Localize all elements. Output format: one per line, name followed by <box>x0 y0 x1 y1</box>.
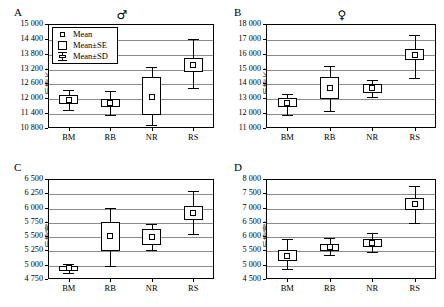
x-tick-mark <box>287 128 288 131</box>
y-tick-mark <box>45 98 48 99</box>
y-tick-mark <box>45 208 48 209</box>
mean-marker <box>327 244 333 250</box>
x-tick-mark <box>415 128 416 131</box>
x-tick-mark <box>69 279 70 282</box>
x-tick-label: RB <box>309 284 352 293</box>
y-tick-mark <box>263 236 266 237</box>
y-tick-mark <box>263 24 266 25</box>
whisker-cap <box>409 78 420 79</box>
whisker-cap <box>105 208 116 209</box>
x-tick-label: RB <box>90 133 132 142</box>
y-tick-label: 6 000 <box>222 232 261 240</box>
x-tick-label: NR <box>351 284 394 293</box>
y-tick-label: 14 000 <box>222 79 261 87</box>
y-tick-mark <box>45 193 48 194</box>
whisker-cap <box>409 223 420 224</box>
whisker-cap <box>146 250 157 251</box>
y-tick-label: 4 500 <box>222 275 261 283</box>
x-tick-label: NR <box>351 133 394 142</box>
whisker-cap <box>105 115 116 116</box>
y-tick-mark <box>45 279 48 280</box>
whisker-cap <box>188 191 199 192</box>
x-tick-label: BM <box>48 133 90 142</box>
x-tick-mark <box>415 279 416 282</box>
y-tick-mark <box>263 69 266 70</box>
sex-symbol: ♂ <box>112 8 132 22</box>
mean-marker <box>412 201 418 207</box>
gridline <box>49 251 213 252</box>
y-tick-label: 5 000 <box>222 261 261 269</box>
panel-d: D后翅宽/mm4 5005 0005 5006 0006 5007 0007 5… <box>222 155 444 307</box>
y-tick-label: 12 000 <box>222 109 261 117</box>
y-tick-mark <box>45 69 48 70</box>
y-tick-label: 13 800 <box>0 50 43 58</box>
y-tick-mark <box>45 236 48 237</box>
sex-symbol: ♀ <box>332 8 352 22</box>
x-tick-label: BM <box>266 284 309 293</box>
y-tick-mark <box>45 222 48 223</box>
sd-symbol-icon <box>55 51 71 62</box>
gridline <box>267 84 435 85</box>
whisker-cap <box>105 91 116 92</box>
legend-label: Mean±SE <box>73 41 107 50</box>
y-tick-mark <box>45 250 48 251</box>
y-tick-label: 18 000 <box>222 20 261 28</box>
x-tick-label: NR <box>131 284 173 293</box>
y-tick-label: 7 000 <box>222 203 261 211</box>
y-tick-label: 15 000 <box>0 20 43 28</box>
mean-marker <box>412 52 418 58</box>
y-tick-label: 12 000 <box>0 94 43 102</box>
y-tick-mark <box>263 128 266 129</box>
legend-mean-se: Mean±SE <box>55 40 115 51</box>
gridline <box>49 223 213 224</box>
x-tick-mark <box>193 128 194 131</box>
whisker-cap <box>188 39 199 40</box>
gridline <box>267 40 435 41</box>
gridline <box>49 237 213 238</box>
y-tick-label: 6 250 <box>0 189 43 197</box>
y-tick-mark <box>45 128 48 129</box>
whisker-cap <box>188 234 199 235</box>
x-tick-mark <box>152 279 153 282</box>
x-tick-label: NR <box>131 133 173 142</box>
mean-marker <box>149 94 155 100</box>
y-tick-mark <box>45 24 48 25</box>
y-tick-label: 10 800 <box>0 124 43 132</box>
y-tick-mark <box>263 279 266 280</box>
y-tick-mark <box>263 250 266 251</box>
y-tick-mark <box>45 83 48 84</box>
mean-marker <box>107 100 113 106</box>
x-tick-mark <box>110 128 111 131</box>
x-tick-label: RB <box>90 284 132 293</box>
whisker-cap <box>324 255 335 256</box>
x-tick-label: RB <box>309 133 352 142</box>
y-tick-label: 6 500 <box>222 218 261 226</box>
y-tick-mark <box>263 208 266 209</box>
se-symbol-icon <box>55 40 71 51</box>
y-tick-mark <box>45 54 48 55</box>
mean-marker <box>190 62 196 68</box>
y-tick-mark <box>263 113 266 114</box>
x-tick-mark <box>330 279 331 282</box>
figure-grid: A♂后翅长/mm10 80011 40012 00012 60013 20013… <box>0 0 444 307</box>
whisker-cap <box>367 233 378 234</box>
mean-marker <box>284 253 290 259</box>
x-tick-label: RS <box>173 133 215 142</box>
mean-marker <box>149 234 155 240</box>
y-tick-label: 14 400 <box>0 35 43 43</box>
y-tick-label: 5 250 <box>0 246 43 254</box>
y-tick-mark <box>45 113 48 114</box>
x-tick-label: BM <box>48 284 90 293</box>
x-tick-mark <box>152 128 153 131</box>
whisker-cap <box>324 111 335 112</box>
x-tick-label: BM <box>266 133 309 142</box>
whisker-cap <box>63 110 74 111</box>
mean-marker <box>369 85 375 91</box>
panel-c: C后翅宽/mm4 7505 0005 2505 5005 7506 0006 2… <box>0 155 222 307</box>
mean-symbol-icon <box>55 29 71 40</box>
whisker-cap <box>324 238 335 239</box>
whisker-cap <box>282 269 293 270</box>
plot-area <box>266 24 436 128</box>
panel-letter: A <box>14 6 22 18</box>
whisker-cap <box>188 88 199 89</box>
